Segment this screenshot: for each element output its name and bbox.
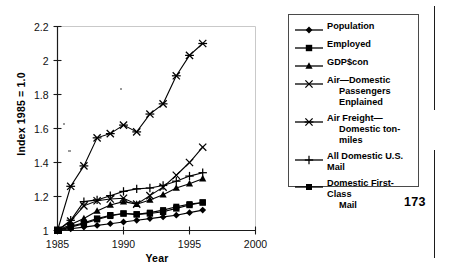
legend-label-0: Population bbox=[325, 21, 374, 32]
x-tick-label: 1990 bbox=[112, 238, 136, 250]
scan-speck bbox=[63, 123, 65, 125]
legend-label-line1: All Domestic U.S. Mail bbox=[327, 151, 403, 172]
marker-square bbox=[306, 45, 312, 51]
legend-swatch-cross-x-icon bbox=[293, 76, 325, 88]
series-line bbox=[58, 147, 203, 230]
legend-label-line1: Air—Domestic bbox=[327, 75, 390, 85]
legend-item-3: Air—DomesticPassengers Enplained bbox=[293, 75, 414, 108]
y-tick-label: 2.2 bbox=[34, 21, 49, 33]
legend-label-2: GDP$con bbox=[325, 57, 368, 68]
legend-label-line1: Air Freight— bbox=[327, 113, 383, 123]
legend-label-line1: Domestic First-Class bbox=[327, 178, 394, 199]
marker-square-small bbox=[147, 210, 153, 216]
legend-swatch-plus-icon bbox=[293, 152, 325, 164]
marker-diamond bbox=[120, 219, 127, 226]
marker-square-small bbox=[173, 204, 179, 210]
legend-label-line1: Population bbox=[327, 21, 374, 31]
marker-diamond bbox=[199, 207, 206, 214]
legend-item-5: All Domestic U.S. Mail bbox=[293, 151, 414, 173]
legend-swatch-square-icon bbox=[293, 40, 325, 52]
series-2 bbox=[58, 175, 207, 231]
series-origin-cluster bbox=[54, 227, 62, 235]
marker-square-small bbox=[121, 211, 127, 217]
y-tick-label: 1 bbox=[43, 225, 49, 237]
legend-item-1: Employed bbox=[293, 39, 414, 52]
legend-label-line2: Passengers Enplained bbox=[327, 86, 414, 108]
x-axis-title: Year bbox=[58, 252, 256, 264]
legend-swatch-square-sm-icon bbox=[293, 179, 325, 191]
marker-square-small bbox=[134, 211, 140, 217]
legend-item-6: Domestic First-ClassMail bbox=[293, 178, 414, 211]
legend-item-2: GDP$con bbox=[293, 57, 414, 70]
legend-label-line1: Employed bbox=[327, 39, 371, 49]
marker-square-small bbox=[81, 221, 87, 227]
y-tick-label: 1.6 bbox=[34, 123, 49, 135]
y-tick-label: 1.4 bbox=[34, 157, 49, 169]
series-1 bbox=[58, 199, 206, 230]
x-tick-label: 2000 bbox=[244, 238, 268, 250]
page-number: 173 bbox=[404, 195, 426, 209]
legend-item-0: Population bbox=[293, 21, 414, 34]
series-6 bbox=[58, 199, 206, 230]
marker-square-small bbox=[94, 216, 100, 222]
y-tick-label: 1.2 bbox=[34, 191, 49, 203]
y-tick-label: 2 bbox=[43, 55, 49, 67]
series-3 bbox=[58, 144, 207, 231]
marker-triangle bbox=[80, 215, 87, 222]
marker-diamond bbox=[94, 222, 101, 229]
y-tick-label: 1.8 bbox=[34, 89, 49, 101]
marker-square-small bbox=[68, 224, 74, 230]
marker-square-small bbox=[187, 201, 193, 207]
chart-plot-area: 11.21.41.61.822.21985199019952000 Index … bbox=[0, 0, 278, 273]
x-tick-label: 1985 bbox=[46, 238, 70, 250]
marker-diamond bbox=[133, 217, 140, 224]
legend-item-4: Air Freight—Domestic ton-miles bbox=[293, 113, 414, 146]
legend-swatch-diamond-icon bbox=[293, 22, 325, 34]
legend-swatch-asterisk-icon bbox=[293, 114, 325, 126]
marker-square-small bbox=[200, 199, 206, 205]
scan-speck bbox=[120, 88, 122, 90]
marker-square-small bbox=[160, 207, 166, 213]
legend-label-3: Air—DomesticPassengers Enplained bbox=[325, 75, 414, 108]
y-axis-title: Index 1985 = 1.0 bbox=[15, 49, 27, 179]
legend-label-5: All Domestic U.S. Mail bbox=[325, 151, 414, 173]
figure-page: 11.21.41.61.822.21985199019952000 Index … bbox=[0, 0, 451, 273]
marker-diamond bbox=[306, 27, 313, 34]
marker-diamond bbox=[107, 220, 114, 227]
legend-label-1: Employed bbox=[325, 39, 371, 50]
marker-triangle bbox=[160, 191, 167, 198]
marker-square-small bbox=[107, 213, 113, 219]
chart-legend: PopulationEmployedGDP$conAir—DomesticPas… bbox=[288, 14, 419, 187]
marker-square-small bbox=[306, 184, 312, 190]
x-tick-label: 1995 bbox=[178, 238, 202, 250]
legend-label-line1: GDP$con bbox=[327, 57, 368, 67]
marker-diamond bbox=[186, 209, 193, 216]
chart-svg: 11.21.41.61.822.21985199019952000 bbox=[0, 0, 278, 273]
legend-label-6: Domestic First-ClassMail bbox=[325, 178, 414, 211]
legend-label-line2: Mail bbox=[327, 200, 414, 211]
legend-label-4: Air Freight—Domestic ton-miles bbox=[325, 113, 414, 146]
series-line bbox=[58, 179, 203, 231]
marker-diamond bbox=[173, 212, 180, 219]
series-line bbox=[58, 202, 203, 230]
legend-label-line2: Domestic ton-miles bbox=[327, 124, 414, 146]
legend-swatch-triangle-icon bbox=[293, 58, 325, 70]
page-rule-top bbox=[434, 6, 435, 110]
marker-triangle bbox=[94, 207, 101, 214]
scan-speck bbox=[68, 150, 71, 152]
page-rule-bottom bbox=[434, 150, 435, 258]
